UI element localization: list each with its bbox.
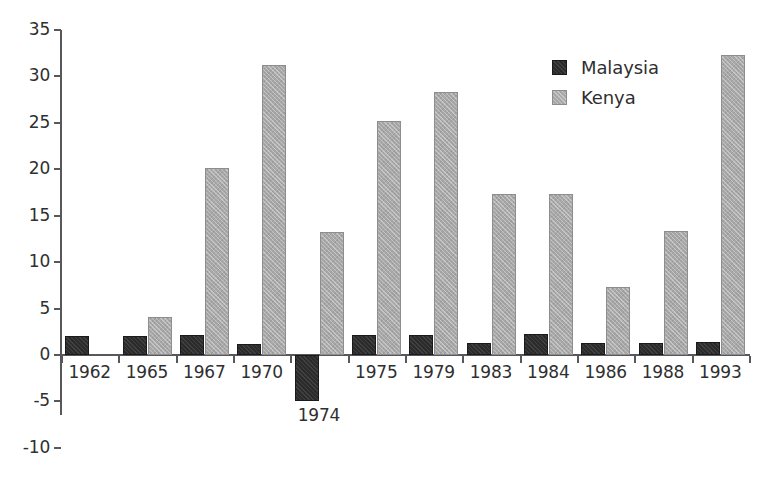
y-tick-15 — [54, 215, 61, 217]
bar-malaysia-1962 — [65, 336, 89, 355]
x-tick-label-1962: 1962 — [61, 362, 118, 382]
y-tick-label--5: -5 — [8, 390, 50, 410]
y-tick-20 — [54, 168, 61, 170]
bar-kenya-1970 — [262, 65, 286, 355]
y-tick-label-10: 10 — [8, 251, 50, 271]
bar-kenya-1984 — [549, 194, 573, 355]
x-tick-label-1974: 1974 — [290, 405, 347, 425]
x-tick-label-1983: 1983 — [462, 362, 519, 382]
bar-malaysia-1983 — [467, 343, 491, 355]
bar-malaysia-1986 — [581, 343, 605, 355]
x-tick-label-1970: 1970 — [233, 362, 290, 382]
bar-kenya-1975 — [377, 121, 401, 355]
y-tick-label-0: 0 — [8, 344, 50, 364]
bar-malaysia-1967 — [180, 335, 204, 355]
y-tick-30 — [54, 75, 61, 77]
x-tick-label-1975: 1975 — [348, 362, 405, 382]
x-tick-label-1979: 1979 — [405, 362, 462, 382]
plot-area: 35302520151050-5-10 19621965196719701974… — [0, 0, 774, 479]
legend-item-kenya[interactable]: Kenya — [552, 82, 659, 112]
x-tick-label-1984: 1984 — [520, 362, 577, 382]
legend-item-malaysia[interactable]: Malaysia — [552, 52, 659, 82]
y-tick-label-35: 35 — [8, 19, 50, 39]
legend-label-malaysia: Malaysia — [581, 57, 659, 78]
y-tick-label--10: -10 — [8, 437, 50, 457]
bar-kenya-1988 — [664, 231, 688, 355]
y-tick-35 — [54, 29, 61, 31]
legend-swatch-kenya-icon — [552, 90, 567, 105]
x-tick-label-1993: 1993 — [692, 362, 749, 382]
bar-malaysia-1970 — [237, 344, 261, 355]
bar-kenya-1993 — [721, 55, 745, 355]
bar-malaysia-1975 — [352, 335, 376, 355]
y-tick-25 — [54, 122, 61, 124]
legend: Malaysia Kenya — [552, 52, 659, 112]
bar-malaysia-1965 — [123, 336, 147, 355]
y-tick--5 — [54, 400, 61, 402]
bar-malaysia-1974 — [295, 355, 319, 401]
legend-label-kenya: Kenya — [581, 87, 636, 108]
bar-malaysia-1988 — [639, 343, 663, 355]
bar-malaysia-1979 — [409, 335, 433, 355]
x-tick-label-1965: 1965 — [118, 362, 175, 382]
bar-malaysia-1993 — [696, 342, 720, 355]
bar-kenya-1983 — [492, 194, 516, 355]
y-tick-10 — [54, 261, 61, 263]
bar-kenya-1965 — [148, 317, 172, 355]
y-tick-label-25: 25 — [8, 112, 50, 132]
x-tick-label-1986: 1986 — [577, 362, 634, 382]
x-tick-4 — [290, 356, 292, 363]
bar-chart: 35302520151050-5-10 19621965196719701974… — [0, 0, 774, 479]
bar-kenya-1986 — [606, 287, 630, 355]
y-tick-0 — [54, 354, 61, 356]
y-tick-label-20: 20 — [8, 158, 50, 178]
bar-kenya-1967 — [205, 168, 229, 355]
bar-malaysia-1984 — [524, 334, 548, 355]
bar-kenya-1979 — [434, 92, 458, 355]
x-tick-12 — [749, 356, 751, 363]
y-tick-label-5: 5 — [8, 298, 50, 318]
bar-kenya-1974 — [320, 232, 344, 355]
y-tick-label-15: 15 — [8, 205, 50, 225]
x-tick-label-1967: 1967 — [176, 362, 233, 382]
legend-swatch-malaysia-icon — [552, 60, 567, 75]
y-tick--10 — [54, 447, 61, 449]
y-tick-5 — [54, 308, 61, 310]
y-tick-label-30: 30 — [8, 65, 50, 85]
x-tick-label-1988: 1988 — [634, 362, 691, 382]
